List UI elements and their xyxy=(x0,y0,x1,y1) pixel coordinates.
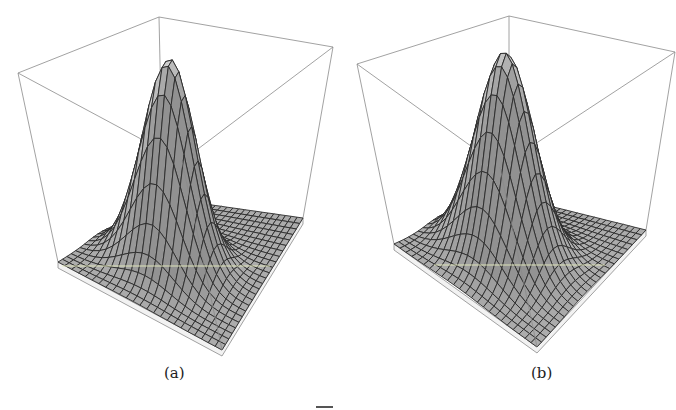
page-mark xyxy=(316,406,333,408)
surface-mesh xyxy=(394,53,646,347)
caption-b: (b) xyxy=(531,364,552,382)
caption-a: (a) xyxy=(164,364,185,382)
surface-plot-a xyxy=(18,17,333,356)
figure xyxy=(0,0,676,410)
surface-plot-b xyxy=(357,16,675,353)
surface-mesh xyxy=(58,60,303,350)
